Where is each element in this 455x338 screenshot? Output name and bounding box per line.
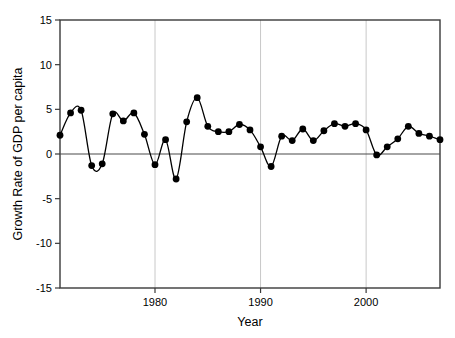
y-axis-title: Growth Rate of GDP per capita — [11, 68, 25, 241]
x-axis-title: Year — [237, 315, 262, 329]
data-point-1974 — [88, 162, 95, 169]
data-point-2005 — [415, 130, 422, 137]
data-point-1986 — [215, 128, 222, 135]
y-tick-label-0: 0 — [46, 148, 52, 160]
data-point-2006 — [426, 133, 433, 140]
chart-figure: -15-10-5051015 198019902000 Year Growth … — [0, 0, 455, 338]
data-point-1995 — [310, 137, 317, 144]
data-point-1983 — [183, 118, 190, 125]
y-axis-ticks: -15-10-5051015 — [36, 14, 60, 294]
y-tick-label--15: -15 — [36, 282, 52, 294]
y-tick-label-15: 15 — [40, 14, 52, 26]
data-point-2004 — [405, 123, 412, 130]
data-point-2003 — [394, 135, 401, 142]
y-tick-label--10: -10 — [36, 237, 52, 249]
data-point-1979 — [141, 131, 148, 138]
data-point-1978 — [130, 110, 137, 117]
x-tick-label-1990: 1990 — [248, 296, 272, 308]
data-point-1973 — [78, 107, 85, 114]
y-tick-label--5: -5 — [42, 193, 52, 205]
data-point-1990 — [257, 143, 264, 150]
data-point-1982 — [173, 176, 180, 183]
data-point-1985 — [204, 123, 211, 130]
data-point-1977 — [120, 118, 127, 125]
data-point-1997 — [331, 120, 338, 127]
data-point-1987 — [225, 128, 232, 135]
data-point-1994 — [299, 126, 306, 133]
data-point-1999 — [352, 120, 359, 127]
y-tick-label-5: 5 — [46, 103, 52, 115]
data-point-1993 — [289, 137, 296, 144]
x-tick-label-2000: 2000 — [354, 296, 378, 308]
data-point-2001 — [373, 151, 380, 158]
data-point-1984 — [194, 94, 201, 101]
data-point-2002 — [384, 143, 391, 150]
data-point-1991 — [268, 163, 275, 170]
data-point-1975 — [99, 160, 106, 167]
data-point-1980 — [152, 161, 159, 168]
data-point-1992 — [278, 133, 285, 140]
x-tick-label-1980: 1980 — [143, 296, 167, 308]
x-axis-ticks: 198019902000 — [143, 288, 379, 308]
data-point-2000 — [363, 126, 370, 133]
data-point-2007 — [437, 136, 444, 143]
chart-svg: -15-10-5051015 198019902000 Year Growth … — [0, 0, 455, 338]
data-point-1998 — [342, 123, 349, 130]
data-point-1976 — [109, 110, 116, 117]
data-point-1989 — [247, 126, 254, 133]
data-point-1988 — [236, 121, 243, 128]
data-point-1972 — [67, 110, 74, 117]
data-point-1996 — [320, 127, 327, 134]
y-tick-label-10: 10 — [40, 59, 52, 71]
data-point-1971 — [57, 132, 64, 139]
data-point-1981 — [162, 136, 169, 143]
